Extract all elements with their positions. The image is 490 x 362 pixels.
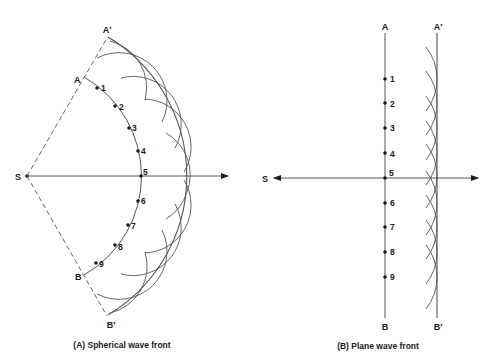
svg-text:9: 9 — [390, 272, 395, 282]
svg-text:3: 3 — [132, 123, 137, 133]
svg-text:7: 7 — [131, 221, 136, 231]
ray-to-a-prime — [27, 38, 107, 176]
label-b-prime-b: B′ — [434, 322, 443, 332]
label-a-prime: A′ — [103, 25, 112, 35]
caption-spherical: (A) Spherical wave front — [73, 340, 170, 350]
svg-text:1: 1 — [101, 83, 106, 93]
svg-text:9: 9 — [99, 259, 104, 269]
svg-text:1: 1 — [390, 74, 395, 84]
label-a: A — [74, 75, 81, 85]
source-label: S — [15, 172, 21, 182]
label-a-b: A — [382, 22, 389, 32]
source-label-b: S — [262, 174, 268, 184]
svg-text:4: 4 — [390, 149, 395, 159]
huygens-wavefront-figure: S A′ B′ A B 1 2 3 4 5 6 7 8 9 (A) Spheri… — [0, 0, 490, 362]
svg-text:8: 8 — [118, 242, 123, 252]
svg-text:2: 2 — [390, 99, 395, 109]
label-b: B — [75, 272, 82, 282]
svg-text:8: 8 — [390, 247, 395, 257]
svg-text:5: 5 — [389, 168, 394, 178]
svg-text:5: 5 — [143, 167, 148, 177]
svg-text:6: 6 — [141, 196, 146, 206]
panel-plane-wave: S A A′ B B′ 1 2 3 4 5 6 7 8 9 (B) Plane … — [262, 22, 478, 351]
svg-text:7: 7 — [390, 222, 395, 232]
label-a-prime-b: A′ — [434, 22, 443, 32]
ray-to-b-prime — [27, 176, 107, 316]
svg-text:2: 2 — [119, 102, 124, 112]
caption-plane: (B) Plane wave front — [337, 341, 419, 351]
svg-text:6: 6 — [390, 198, 395, 208]
secondary-wavelets — [97, 41, 191, 313]
svg-text:4: 4 — [141, 146, 146, 156]
svg-text:3: 3 — [390, 123, 395, 133]
label-b-prime: B′ — [107, 320, 116, 330]
label-b-b: B — [382, 322, 389, 332]
panel-spherical-wave: S A′ B′ A B 1 2 3 4 5 6 7 8 9 (A) Spheri… — [15, 25, 228, 350]
